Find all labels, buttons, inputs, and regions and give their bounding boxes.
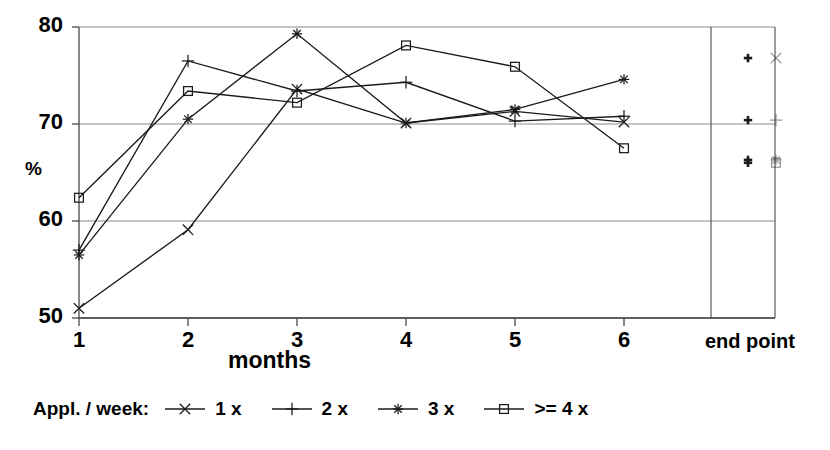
- legend-label: >= 4 x: [534, 398, 588, 420]
- endpoint-edge-marker: [771, 53, 781, 63]
- series-marker: [619, 74, 629, 84]
- x-tick-label: 1: [64, 327, 94, 353]
- legend-entry: 1 x: [163, 398, 241, 420]
- series-marker: [183, 114, 193, 124]
- series-line: [79, 45, 624, 197]
- series-marker: [292, 29, 302, 39]
- y-tick-label: 70: [19, 109, 63, 135]
- series-marker: [618, 110, 630, 122]
- series-line: [79, 61, 624, 250]
- legend-marker-icon: [482, 400, 526, 418]
- y-tick-label: 80: [19, 12, 63, 38]
- legend-glyph: [285, 403, 297, 415]
- legend-label: 3 x: [428, 398, 454, 420]
- legend-glyph: [393, 404, 403, 414]
- series-line: [79, 89, 624, 308]
- endpoint-marker: [744, 54, 752, 62]
- y-tick-label: 60: [19, 206, 63, 232]
- legend-entries: 1 x2 x3 x>= 4 x: [163, 398, 616, 420]
- endpoint-marker: [744, 116, 752, 124]
- legend-entry: 3 x: [376, 398, 454, 420]
- chart-figure: % months end point 50607080 123456 Appl.…: [0, 0, 830, 450]
- x-tick-label: 4: [391, 327, 421, 353]
- series-line: [79, 34, 624, 255]
- endpoint-edge-glyph: [771, 155, 781, 165]
- series-marker: [400, 76, 412, 88]
- endpoint-edge-glyph: [771, 53, 781, 63]
- series-marker: [509, 115, 521, 127]
- series-markers-group: [73, 29, 630, 314]
- x-tick-label: 3: [282, 327, 312, 353]
- axes-group: [72, 27, 775, 326]
- legend-marker-icon: [376, 400, 420, 418]
- series-marker: [182, 55, 194, 67]
- legend-entry: >= 4 x: [482, 398, 588, 420]
- series-marker: [510, 104, 520, 114]
- legend-marker-icon: [163, 400, 207, 418]
- y-axis-label: %: [25, 158, 42, 180]
- legend-marker-icon: [270, 400, 314, 418]
- series-marker: [183, 225, 193, 235]
- x-tick-label: 6: [609, 327, 639, 353]
- line-chart-plot: [0, 0, 830, 450]
- x-tick-label: 5: [500, 327, 530, 353]
- series-lines-group: [79, 34, 624, 309]
- gridlines-group: [79, 27, 775, 318]
- endpoint-axis-label: end point: [705, 330, 795, 353]
- y-tick-label: 50: [19, 303, 63, 329]
- x-tick-label: 2: [173, 327, 203, 353]
- series-marker: [401, 118, 411, 128]
- legend-label: 1 x: [215, 398, 241, 420]
- legend-entry: 2 x: [270, 398, 348, 420]
- legend-label: 2 x: [322, 398, 348, 420]
- endpoint-edge-marker: [771, 155, 781, 165]
- endpoint-markers-group: [744, 53, 782, 167]
- series-marker: [74, 250, 84, 260]
- chart-legend: Appl. / week: 1 x2 x3 x>= 4 x: [33, 398, 616, 420]
- legend-title: Appl. / week:: [33, 398, 149, 420]
